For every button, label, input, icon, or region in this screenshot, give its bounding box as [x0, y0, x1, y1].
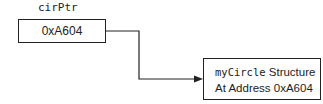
struct-target-box: myCircle Structure At Address 0xA604 — [203, 58, 321, 100]
struct-name: myCircle — [215, 66, 266, 78]
struct-label: Structure — [266, 66, 316, 78]
struct-line-1: myCircle Structure — [215, 64, 320, 80]
pointer-diagram: cirPtr 0xA604 myCircle Structure At Addr… — [0, 0, 323, 104]
struct-address: At Address 0xA604 — [215, 80, 320, 96]
arrowhead-icon — [194, 76, 203, 83]
